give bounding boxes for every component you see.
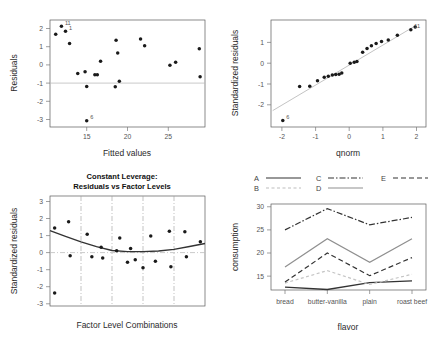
point-labels: 611 [286, 23, 420, 120]
data-point [96, 73, 100, 77]
y-tick-label: -2 [258, 101, 264, 108]
data-point [199, 240, 203, 244]
data-point [396, 34, 400, 38]
data-point [334, 73, 338, 77]
data-point [83, 70, 87, 74]
data-point [154, 260, 158, 264]
x-tick-label: 1 [381, 133, 385, 140]
data-point [355, 60, 359, 64]
data-point [308, 84, 312, 88]
y-axis-label: Residuals [9, 54, 19, 91]
x-axis-label: Factor Level Combinations [76, 320, 177, 330]
data-point [143, 44, 147, 48]
y-tick-label: 15 [256, 273, 264, 280]
data-point [139, 37, 143, 41]
data-points [53, 220, 202, 295]
data-point [54, 32, 58, 36]
data-point [68, 254, 72, 258]
data-point [114, 85, 118, 89]
loess-smoother-line [50, 231, 205, 252]
plot-frame [50, 196, 205, 306]
data-point [118, 236, 122, 240]
data-points [54, 25, 202, 123]
category-label: bread [276, 298, 294, 305]
data-point [168, 230, 172, 234]
y-tick-label: 1 [39, 43, 43, 50]
panel-constant-leverage: Constant Leverage: Residuals vs Factor L… [0, 168, 222, 337]
point-label: 6 [286, 114, 289, 120]
legend-label-D: D [316, 184, 321, 193]
data-point [101, 256, 105, 260]
data-point [99, 246, 103, 250]
qq-reference-line [273, 25, 416, 110]
y-axis-ticks: 1 0 -1 -2 [258, 39, 271, 108]
series-line-B [285, 271, 412, 285]
data-point [183, 230, 187, 234]
data-point [365, 47, 369, 51]
data-point [370, 44, 374, 48]
point-labels: 1116 [65, 20, 93, 120]
data-point [169, 265, 173, 269]
y-tick-label: 0 [39, 61, 43, 68]
x-axis-label: Fitted values [103, 148, 151, 158]
y-tick-label: 0 [260, 60, 264, 67]
y-tick-label: -3 [37, 300, 43, 307]
legend: A B C D E [254, 174, 428, 193]
category-label: roast beef [397, 298, 427, 305]
plot-frame [50, 20, 205, 127]
data-point [68, 42, 72, 46]
y-tick-label: -1 [37, 80, 43, 87]
category-label: butter-vanilla [308, 298, 347, 305]
y-tick-label: -2 [37, 283, 43, 290]
data-point [281, 119, 285, 123]
data-point [409, 28, 413, 32]
x-tick-label: 20 [124, 133, 132, 140]
data-point [126, 261, 130, 265]
y-tick-label: -1 [258, 81, 264, 88]
data-point [327, 75, 331, 79]
data-point [174, 61, 178, 65]
x-axis-ticks [285, 290, 412, 294]
data-point [60, 25, 64, 29]
y-tick-label: 2 [39, 25, 43, 32]
constant-leverage-chart: Constant Leverage: Residuals vs Factor L… [0, 168, 222, 337]
data-point [361, 51, 365, 55]
plot-frame [271, 20, 426, 127]
x-tick-label: 0 [347, 133, 351, 140]
residuals-vs-fitted-chart: 2 1 0 -1 -2 -3 15 20 25 1116 Fitted valu… [0, 0, 222, 168]
y-tick-label: 0 [39, 249, 43, 256]
data-point [118, 80, 122, 84]
x-tick-label: 2 [415, 133, 419, 140]
point-label: 6 [90, 114, 93, 120]
data-point [380, 40, 384, 44]
data-point [53, 291, 57, 295]
data-point [53, 226, 57, 230]
y-axis-ticks: 3 2 1 0 -1 -2 -3 [37, 198, 50, 307]
data-point [64, 29, 68, 33]
y-tick-label: -3 [37, 116, 43, 123]
data-point [116, 51, 120, 55]
x-axis-label: qnorm [336, 148, 360, 158]
x-tick-label: -2 [279, 133, 285, 140]
x-axis-ticks: 15 20 25 [83, 127, 172, 140]
data-point [149, 234, 153, 238]
y-axis-ticks: 2 1 0 -1 -2 -3 [37, 25, 50, 123]
data-point [168, 64, 172, 68]
chart-title-line2: Residuals vs Factor Levels [73, 182, 171, 191]
data-point [316, 79, 320, 83]
data-point [129, 247, 133, 251]
chart-title-line1: Constant Leverage: [87, 172, 158, 181]
x-tick-label: 25 [165, 133, 173, 140]
data-point [374, 42, 378, 46]
y-tick-label: 2 [39, 215, 43, 222]
interaction-chart: A B C D E 15202530 breadbutter-vanillapl… [221, 168, 443, 337]
y-tick-label: 20 [256, 249, 264, 256]
data-point [134, 258, 138, 262]
y-axis-label: consumption [230, 223, 240, 271]
data-point [198, 47, 202, 51]
data-point [198, 75, 202, 79]
y-tick-label: 30 [256, 203, 264, 210]
y-tick-label: 1 [260, 39, 264, 46]
point-label: 11 [414, 23, 420, 29]
y-tick-label: -2 [37, 98, 43, 105]
